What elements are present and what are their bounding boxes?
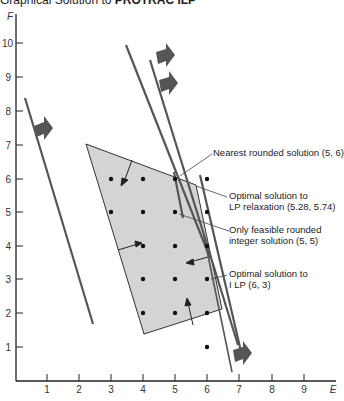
svg-text:9: 9 — [301, 384, 307, 395]
arrow-icon — [233, 341, 252, 365]
svg-text:4: 4 — [5, 241, 11, 252]
svg-text:3: 3 — [5, 274, 11, 285]
svg-text:10: 10 — [2, 38, 14, 49]
svg-text:9: 9 — [5, 72, 11, 83]
svg-text:8: 8 — [5, 106, 11, 117]
svg-text:2: 2 — [76, 384, 82, 395]
x-axis-label: E — [330, 384, 337, 395]
y-ticks — [16, 43, 23, 347]
annotation-ilp-optimal-line1: Optimal solution to — [229, 268, 308, 279]
svg-text:8: 8 — [269, 384, 275, 395]
arrow-icon — [159, 71, 178, 95]
svg-text:3: 3 — [108, 384, 114, 395]
annotation-feasible-rounded: Only feasible rounded integer solution (… — [229, 224, 321, 246]
annotation-lp-optimal: Optimal solution to LP relaxation (5.28,… — [229, 190, 336, 212]
x-tick-labels: 1 2 3 4 5 6 7 8 9 — [44, 384, 307, 395]
svg-text:2: 2 — [5, 308, 11, 319]
x-ticks — [47, 374, 304, 381]
annotation-feasible-rounded-line2: integer solution (5, 5) — [229, 235, 321, 246]
annotation-lp-optimal-line1: Optimal solution to — [229, 190, 336, 201]
annotation-lp-optimal-line2: LP relaxation (5.28, 5.74) — [229, 201, 336, 212]
svg-text:6: 6 — [204, 384, 210, 395]
y-axis-label: F — [7, 11, 14, 22]
y-tick-labels: 1 2 3 4 5 6 7 8 9 10 — [2, 38, 14, 353]
arrow-icon — [156, 43, 175, 67]
svg-text:1: 1 — [5, 342, 11, 353]
annotation-feasible-rounded-line1: Only feasible rounded — [229, 224, 321, 235]
svg-text:5: 5 — [5, 207, 11, 218]
svg-text:7: 7 — [236, 384, 242, 395]
annotation-ilp-optimal: Optimal solution to I LP (6, 3) — [229, 268, 308, 290]
annotation-ilp-optimal-line2: I LP (6, 3) — [229, 279, 308, 290]
svg-text:1: 1 — [44, 384, 50, 395]
svg-text:4: 4 — [140, 384, 146, 395]
svg-text:5: 5 — [172, 384, 178, 395]
arrow-icon — [34, 116, 53, 140]
svg-text:7: 7 — [5, 140, 11, 151]
annotation-nearest-rounded: Nearest rounded solution (5, 6) — [213, 147, 344, 158]
svg-text:6: 6 — [5, 174, 11, 185]
